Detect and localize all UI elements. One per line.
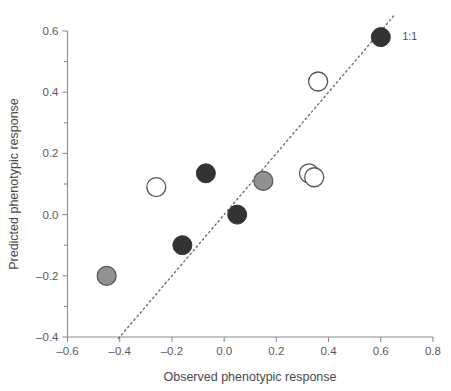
- data-point-marker: [305, 168, 324, 187]
- y-tick-label: 0.6: [43, 25, 59, 37]
- x-axis-title: Observed phenotypic response: [163, 370, 336, 384]
- x-axis-ticks: –0.6–0.4–0.20.00.20.40.60.8: [56, 337, 441, 357]
- x-tick-label: –0.4: [109, 345, 132, 357]
- x-tick-label: 0.2: [268, 345, 284, 357]
- x-tick-label: 0.4: [321, 345, 338, 357]
- plot-canvas: –0.4–0.20.00.20.40.6 –0.6–0.4–0.20.00.20…: [0, 0, 451, 391]
- y-axis-ticks: –0.4–0.20.00.20.40.6: [36, 25, 67, 343]
- y-axis-title: Predicted phenotypic response: [7, 98, 21, 270]
- data-point-marker: [97, 266, 116, 285]
- data-point-marker: [173, 236, 192, 255]
- y-tick-label: –0.4: [36, 331, 59, 343]
- data-point-marker: [147, 178, 166, 197]
- x-tick-label: –0.2: [161, 345, 183, 357]
- y-tick-label: 0.0: [43, 209, 59, 221]
- y-tick-label: –0.2: [36, 270, 58, 282]
- x-tick-label: 0.8: [425, 345, 441, 357]
- x-tick-label: 0.0: [216, 345, 232, 357]
- scatter-plot-figure: –0.4–0.20.00.20.40.6 –0.6–0.4–0.20.00.20…: [0, 0, 451, 391]
- y-tick-label: 0.2: [43, 147, 59, 159]
- reference-line-label: 1:1: [402, 30, 417, 42]
- y-tick-label: 0.4: [43, 86, 60, 98]
- data-point-marker: [371, 28, 390, 47]
- x-tick-label: 0.6: [373, 345, 389, 357]
- chart-annotations: 1:1: [402, 30, 417, 42]
- data-point-marker: [196, 164, 215, 183]
- data-markers: [97, 28, 390, 286]
- x-tick-label: –0.6: [56, 345, 78, 357]
- data-point-marker: [228, 205, 247, 224]
- data-point-marker: [309, 72, 328, 91]
- data-point-marker: [254, 171, 273, 190]
